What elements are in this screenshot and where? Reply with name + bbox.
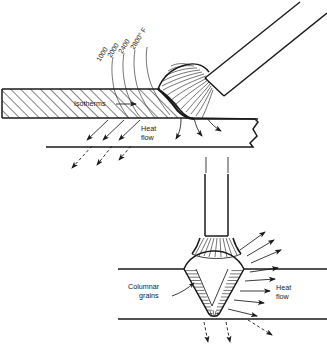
columnar-grains-label-line2: grains bbox=[139, 291, 159, 300]
isotherm-label-2800f: 2800° F bbox=[129, 26, 148, 50]
heat-flow-label-top-line2: flow bbox=[141, 133, 155, 142]
welding-diagram-figure: 1000 2000 2400 2800° F Isotherms He bbox=[0, 0, 327, 348]
heat-flow-arrows-top-left bbox=[72, 120, 140, 168]
heat-flow-label-top-line1: Heat bbox=[141, 124, 156, 133]
heat-flow-arrows-bottom-below bbox=[204, 320, 272, 342]
heat-flow-arrows-top-right bbox=[176, 118, 221, 139]
columnar-grains-callout: Columnar grains bbox=[128, 282, 194, 300]
electrode-bottom bbox=[205, 174, 228, 236]
columnar-grains-left bbox=[185, 271, 213, 314]
isotherms-label: Isotherms bbox=[74, 99, 106, 108]
heat-flow-label-top: Heat flow bbox=[141, 124, 156, 142]
columnar-grains-leader bbox=[172, 283, 194, 296]
isotherm-temperature-labels: 1000 2000 2400 2800° F bbox=[95, 26, 148, 62]
columnar-grains-label-line1: Columnar bbox=[128, 282, 160, 291]
heat-flow-label-bottom-line2: flow bbox=[276, 292, 290, 301]
arc-cone-bottom bbox=[192, 238, 241, 259]
bottom-panel-group: Columnar grains Heat flow bbox=[118, 174, 327, 342]
heat-flow-label-bottom-line1: Heat bbox=[276, 283, 291, 292]
v-groove-fusion-boundary bbox=[184, 269, 244, 316]
weld-diagram-svg: 1000 2000 2400 2800° F Isotherms He bbox=[0, 0, 327, 348]
heat-flow-label-bottom: Heat flow bbox=[276, 283, 291, 301]
section-tick-marks bbox=[206, 157, 228, 173]
top-panel-group: 1000 2000 2400 2800° F Isotherms He bbox=[2, 2, 327, 173]
columnar-grains-right bbox=[215, 271, 243, 314]
isotherm-leader-lines bbox=[112, 47, 153, 89]
electrode-top bbox=[205, 2, 327, 96]
